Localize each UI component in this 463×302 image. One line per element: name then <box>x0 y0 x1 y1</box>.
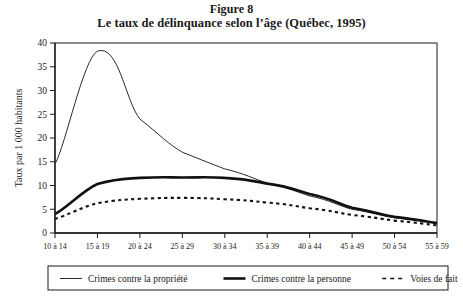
x-tick-label: 25 à 29 <box>171 242 195 251</box>
x-tick-label: 50 à 54 <box>383 242 407 251</box>
x-tick-label: 40 à 44 <box>298 242 322 251</box>
y-tick-label: 20 <box>38 133 48 143</box>
x-tick-label: 15 à 19 <box>86 242 110 251</box>
y-tick-label: 40 <box>38 38 48 48</box>
legend-label: Voies de fait <box>410 274 458 284</box>
y-tick-label: 0 <box>42 228 47 238</box>
chart-legend: Crimes contre la propriétéCrimes contre … <box>48 266 458 290</box>
x-tick-label: 30 à 34 <box>213 242 237 251</box>
y-tick-label: 30 <box>38 86 48 96</box>
y-tick-label: 25 <box>38 110 48 120</box>
series-line-crimes-propriete <box>55 50 437 222</box>
y-tick-label: 15 <box>38 157 48 167</box>
series-line-voies-de-fait <box>55 198 437 226</box>
x-tick-label: 35 à 39 <box>255 242 279 251</box>
plot-frame <box>55 43 437 233</box>
line-chart: 0510152025303540 10 à 1415 à 1920 à 2425… <box>0 0 463 302</box>
legend-label: Crimes contre la propriété <box>88 274 187 284</box>
figure-container: Figure 8 Le taux de délinquance selon l’… <box>0 0 463 302</box>
legend-item-crimes-personne: Crimes contre la personne <box>224 274 351 284</box>
y-axis: 0510152025303540 <box>38 38 56 238</box>
legend-item-crimes-propriete: Crimes contre la propriété <box>60 274 187 284</box>
y-tick-label: 5 <box>42 205 47 215</box>
y-tick-label: 35 <box>38 62 48 72</box>
chart-plot-area: 0510152025303540 10 à 1415 à 1920 à 2425… <box>13 38 449 251</box>
legend-label: Crimes contre la personne <box>252 274 351 284</box>
data-series-group <box>55 50 437 225</box>
x-tick-label: 20 à 24 <box>128 242 152 251</box>
x-tick-label: 10 à 14 <box>43 242 67 251</box>
y-tick-label: 10 <box>38 181 48 191</box>
x-axis: 10 à 1415 à 1920 à 2425 à 2930 à 3435 à … <box>43 233 449 251</box>
x-tick-label: 45 à 49 <box>340 242 364 251</box>
y-axis-title: Taux par 1 000 habitants <box>13 89 24 188</box>
legend-item-voies-de-fait: Voies de fait <box>382 274 458 284</box>
x-tick-label: 55 à 59 <box>425 242 449 251</box>
